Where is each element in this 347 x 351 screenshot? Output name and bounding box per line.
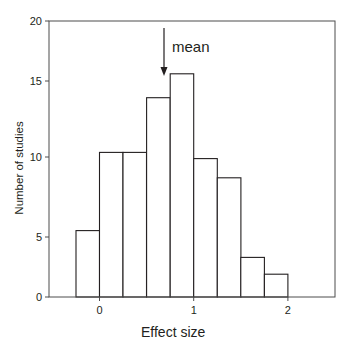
histogram-bar (170, 74, 194, 297)
x-axis-ticks: 012 (96, 297, 291, 316)
histogram-bar (76, 231, 100, 297)
histogram-bar (194, 159, 218, 297)
mean-label: mean (172, 38, 210, 55)
y-axis-label: Number of studies (13, 121, 25, 215)
x-tick-label: 0 (96, 304, 102, 316)
histogram-bar (100, 152, 124, 297)
y-tick-label: 0 (36, 291, 42, 303)
histogram-bar (123, 152, 147, 297)
y-tick-label: 15 (30, 75, 42, 87)
histogram-bar (241, 257, 265, 297)
histogram-bar (147, 98, 171, 297)
x-tick-label: 1 (191, 304, 197, 316)
mean-annotation: mean (161, 28, 210, 76)
mean-arrow-head-icon (161, 67, 168, 76)
histogram-bars (76, 74, 288, 297)
histogram-chart: 05101520 012 Effect size Number of studi… (0, 0, 347, 351)
histogram-bar (217, 178, 241, 297)
y-tick-label: 10 (30, 151, 42, 163)
x-tick-label: 2 (285, 304, 291, 316)
y-tick-label: 5 (36, 231, 42, 243)
y-tick-label: 20 (30, 15, 42, 27)
histogram-bar (264, 274, 288, 297)
y-axis-ticks: 05101520 (30, 15, 49, 303)
x-axis-label: Effect size (141, 324, 206, 340)
